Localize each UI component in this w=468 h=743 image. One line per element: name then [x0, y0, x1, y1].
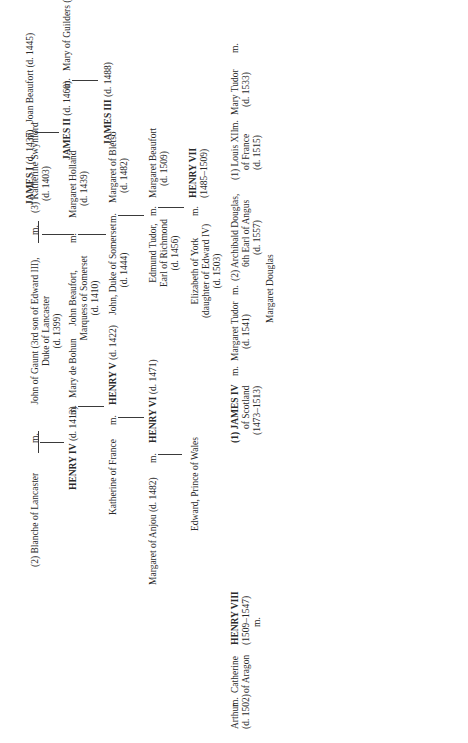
margaret-douglas: Margaret Douglas: [265, 254, 276, 323]
margaret-tudor: Margaret Tudor (d. 1541): [230, 301, 252, 361]
descent-line: [118, 215, 144, 216]
descent-line: [158, 207, 184, 208]
marriage-line: [38, 221, 39, 243]
marriage-m: m.: [230, 285, 241, 295]
marriage-m: m.: [230, 120, 241, 130]
descent-line: [158, 454, 182, 455]
marriage-m: m.: [230, 43, 241, 53]
henry-vi: HENRY VI (d. 1471): [148, 359, 159, 443]
henry-iv: HENRY IV (d. 1413): [68, 406, 79, 490]
mary-of-guelders: Mary of Guilders (d. 1463): [62, 0, 73, 71]
descent-line: [72, 80, 98, 81]
james-i: JAMES I (d. 1437): [25, 130, 36, 205]
james-iii: JAMES III (d. 1488): [103, 62, 114, 145]
marriage-m: m.: [230, 697, 241, 707]
mary-de-bohun: Mary de Bohun: [68, 338, 79, 398]
james-ii: JAMES II (d. 1460): [62, 81, 73, 160]
descent-line: [78, 406, 104, 407]
john-of-gaunt: John of Gaunt (3rd son of Edward III), D…: [30, 241, 63, 421]
blanche-of-lancaster: (2) Blanche of Lancaster: [30, 473, 41, 567]
edward-prince-of-wales: Edward, Prince of Wales: [190, 437, 201, 531]
descent-line: [40, 442, 64, 443]
mary-tudor: Mary Tudor (d. 1533): [230, 69, 252, 115]
archibald-douglas: (2) Archibald Douglas, 6th Earl of Angus…: [230, 194, 263, 281]
catherine-of-aragon: Catherine of Aragon: [230, 655, 252, 693]
louis-xii: (1) Louis XII of France (d. 1515): [230, 129, 263, 180]
katherine-of-france: Katherine of France: [108, 439, 119, 515]
descent-line: [118, 417, 144, 418]
james-iv: (1) JAMES IV of Scotland (1473–1513): [230, 384, 263, 443]
elizabeth-of-york: Elizabeth of York (daughter of Edward IV…: [190, 221, 223, 321]
family-tree-diagram: (2) Blanche of Lancaster m. John of Gaun…: [0, 0, 468, 743]
descent-line: [78, 234, 106, 235]
marriage-m: m.: [230, 366, 241, 376]
marriage-m: m.: [30, 225, 41, 235]
henry-vii: HENRY VII (1485–1509): [188, 148, 210, 198]
joan-beaufort: Joan Beaufort (d. 1445): [25, 33, 36, 123]
john-beaufort: John Beaufort, Marquess of Somerset (d. …: [68, 253, 101, 343]
john-duke-of-somerset: John, Duke of Somerset (d. 1444): [108, 225, 130, 315]
henry-v: HENRY V (d. 1422): [108, 325, 119, 405]
henry-viii: HENRY VIII (1509–1547) m.: [230, 591, 263, 645]
marriage-m: m.: [190, 206, 201, 216]
margaret-holland: Margaret Holland (d. 1439): [68, 150, 90, 218]
marriage-line: [38, 431, 39, 453]
margaret-beaufort: Margaret Beaufort (d. 1509): [148, 128, 170, 198]
descent-line: [35, 132, 59, 133]
margaret-of-anjou: Margaret of Anjou (d. 1482): [148, 477, 159, 585]
edmund-tudor: Edmund Tudor, Earl of Richmond (d. 1456): [148, 213, 181, 293]
